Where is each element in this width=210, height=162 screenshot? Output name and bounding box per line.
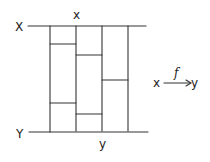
- top-point-label: x: [73, 8, 80, 22]
- bottom-space-label: Y: [15, 127, 24, 141]
- map-source-label: x: [153, 76, 160, 90]
- top-space-label: X: [15, 20, 23, 34]
- bottom-point-label: y: [99, 137, 106, 151]
- map-arrow-label: f: [173, 66, 181, 80]
- fibration-diagram: X Y x y y --> x f y: [0, 0, 210, 162]
- map-target-label: y: [191, 76, 198, 90]
